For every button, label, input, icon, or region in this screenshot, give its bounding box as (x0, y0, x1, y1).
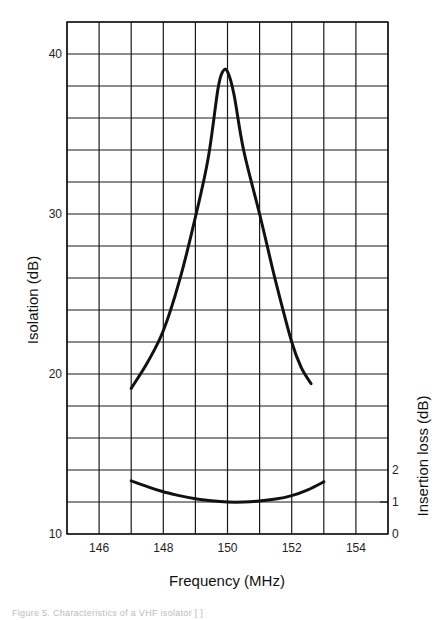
y2-tick-label: 1 (392, 495, 399, 509)
y2-tick-label: 2 (392, 463, 399, 477)
x-tick-label: 150 (217, 541, 237, 555)
x-tick-label: 154 (346, 541, 366, 555)
x-axis-label: Frequency (MHz) (169, 572, 285, 589)
y-tick-label: 30 (49, 207, 63, 221)
x-tick-label: 146 (89, 541, 109, 555)
y-tick-label: 20 (49, 367, 63, 381)
plot-grid (67, 22, 388, 534)
chart: 14614815015215410203040012 Isolation (dB… (0, 0, 448, 620)
x-tick-label: 148 (153, 541, 173, 555)
y-tick-label: 10 (49, 527, 63, 541)
isolation-curve (131, 69, 311, 388)
axis-ticks: 14614815015215410203040012 (49, 47, 399, 555)
y-tick-label: 40 (49, 47, 63, 61)
y2-axis-label: Insertion loss (dB) (414, 396, 431, 517)
figure-caption: Figure 5. Characteristics of a VHF isola… (12, 608, 203, 618)
y2-tick-label: 0 (392, 527, 399, 541)
x-tick-label: 152 (282, 541, 302, 555)
y-axis-label: Isolation (dB) (24, 256, 41, 344)
